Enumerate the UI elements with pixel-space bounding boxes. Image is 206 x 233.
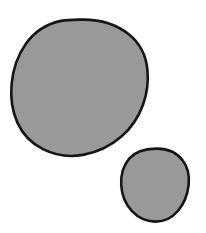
- shapes-svg: [0, 0, 206, 233]
- drawing-canvas: [0, 0, 206, 233]
- small-circle-shape: [121, 149, 189, 222]
